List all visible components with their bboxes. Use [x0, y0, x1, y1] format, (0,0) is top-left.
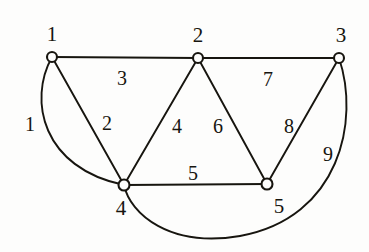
vertex-label-1: 1 — [47, 24, 58, 45]
graph-edge-3 — [52, 57, 198, 58]
edge-label-7: 7 — [263, 69, 273, 89]
edge-label-5: 5 — [188, 163, 198, 183]
edge-label-4: 4 — [172, 116, 182, 136]
edge-label-6: 6 — [213, 116, 223, 136]
graph-vertex-5 — [262, 179, 273, 190]
vertex-label-2: 2 — [193, 25, 204, 46]
edge-label-8: 8 — [284, 116, 294, 136]
graph-edge-2 — [52, 57, 124, 185]
graph-edge-9 — [124, 58, 347, 238]
graph-vertex-1 — [47, 52, 57, 62]
edges-layer — [41, 57, 346, 238]
edge-label-1: 1 — [25, 114, 35, 134]
vertex-label-3: 3 — [336, 25, 347, 46]
graph-edge-8 — [267, 58, 339, 184]
graph-edge-4 — [124, 58, 198, 185]
edge-label-3: 3 — [117, 68, 127, 88]
edge-label-2: 2 — [102, 113, 112, 133]
graph-edge-6 — [198, 58, 267, 184]
vertex-label-4: 4 — [116, 198, 127, 219]
graph-edge-5 — [124, 184, 267, 185]
graph-vertex-4 — [119, 180, 130, 191]
graph-vertex-2 — [193, 53, 203, 63]
graph-vertex-3 — [334, 53, 344, 63]
vertex-label-5: 5 — [274, 196, 285, 217]
graph-diagram: 12345678912345 — [0, 0, 369, 252]
edge-label-9: 9 — [323, 144, 333, 164]
